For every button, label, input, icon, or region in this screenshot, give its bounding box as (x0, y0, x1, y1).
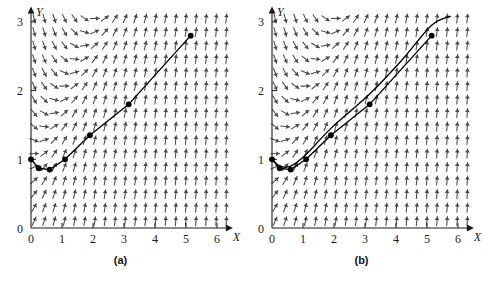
field-arrow-icon (364, 109, 369, 118)
field-arrow-icon (93, 109, 98, 118)
field-arrow-icon (103, 68, 107, 76)
field-arrow-icon (273, 217, 277, 225)
field-arrow-icon (435, 176, 440, 185)
field-arrow-icon (113, 176, 118, 185)
field-arrow-icon (291, 110, 300, 115)
field-arrow-icon (204, 28, 209, 37)
x-tick-label-a-1: 1 (59, 232, 65, 246)
field-arrow-icon (313, 109, 318, 117)
field-arrow-icon (42, 177, 47, 185)
field-arrow-icon (83, 163, 88, 172)
field-arrow-icon (404, 122, 409, 131)
field-arrow-icon (41, 151, 48, 156)
field-arrow-icon (42, 217, 47, 226)
field-arrow-icon (173, 82, 178, 91)
x-tick-label-b-5: 5 (424, 232, 430, 246)
field-arrow-icon (184, 68, 189, 77)
curves-b (269, 16, 450, 172)
x-tick-label-a-6: 6 (214, 232, 220, 246)
field-arrow-icon (82, 82, 87, 89)
field-arrow-icon (384, 203, 389, 212)
field-arrow-icon (344, 136, 349, 145)
field-arrow-icon (273, 55, 278, 64)
field-arrow-icon (71, 43, 79, 48)
field-arrow-icon (311, 57, 320, 62)
field-arrow-icon (123, 122, 128, 131)
field-arrow-icon (194, 136, 199, 145)
field-arrow-icon (163, 217, 168, 226)
field-arrow-icon (465, 163, 470, 172)
field-arrow-icon (334, 203, 339, 212)
field-arrow-icon (303, 217, 308, 226)
field-arrow-icon (224, 109, 229, 118)
field-arrow-icon (445, 95, 450, 104)
field-arrow-icon (384, 122, 389, 131)
field-arrow-icon (354, 203, 359, 212)
field-arrow-icon (103, 217, 108, 226)
field-arrow-icon (312, 43, 320, 48)
field-arrow-icon (435, 68, 440, 77)
field-arrow-icon (374, 68, 379, 77)
field-arrow-icon (292, 83, 299, 88)
field-arrow-icon (194, 55, 199, 64)
field-arrow-icon (364, 55, 369, 64)
field-arrow-icon (184, 28, 189, 37)
field-arrow-icon (293, 190, 298, 198)
field-arrow-icon (404, 68, 409, 77)
field-arrow-icon (51, 83, 58, 88)
field-arrow-icon (143, 14, 148, 23)
field-arrow-icon (273, 96, 278, 104)
field-arrow-icon (163, 82, 168, 91)
field-arrow-icon (133, 68, 138, 77)
field-arrow-icon (184, 190, 189, 199)
y-axis-arrow-icon (269, 7, 276, 14)
field-arrow-icon (112, 15, 117, 22)
field-arrow-icon (224, 176, 229, 185)
x-tick-label-b-1: 1 (300, 232, 306, 246)
field-arrow-icon (272, 191, 277, 198)
field-arrow-icon (394, 203, 399, 212)
field-arrow-icon (214, 109, 219, 118)
field-arrow-icon (283, 14, 288, 23)
curves-a (28, 33, 193, 173)
field-arrow-icon (332, 43, 339, 49)
field-arrow-icon (224, 136, 229, 145)
field-arrow-icon (374, 136, 379, 145)
field-arrow-icon (143, 28, 148, 37)
field-arrow-icon (455, 176, 460, 185)
field-arrow-icon (42, 14, 47, 23)
field-arrow-icon (224, 14, 229, 23)
field-arrow-icon (61, 56, 68, 62)
curve-data-point (303, 156, 309, 162)
field-arrow-icon (163, 109, 168, 118)
field-arrow-icon (133, 82, 138, 91)
y-axis-label: Y (277, 5, 285, 19)
field-arrow-icon (153, 136, 158, 145)
field-arrow-icon (394, 95, 399, 104)
field-arrow-icon (465, 95, 470, 104)
field-arrow-icon (123, 109, 128, 118)
field-arrow-icon (324, 149, 329, 158)
field-arrow-icon (184, 95, 189, 104)
field-arrow-icon (445, 28, 450, 37)
field-arrow-icon (384, 95, 389, 104)
field-arrow-icon (455, 190, 460, 199)
field-arrow-icon (384, 176, 389, 185)
field-arrow-icon (174, 55, 179, 64)
curve-data-point (47, 167, 53, 173)
field-arrow-icon (435, 190, 440, 199)
field-arrow-icon (343, 29, 349, 36)
x-tick-label-a-3: 3 (121, 232, 127, 246)
field-arrow-icon (404, 109, 409, 118)
field-arrow-icon (73, 176, 78, 185)
field-arrow-icon (364, 163, 369, 172)
field-arrow-icon (174, 41, 179, 50)
field-arrow-icon (455, 122, 460, 131)
field-arrow-icon (204, 217, 209, 226)
field-arrow-icon (40, 124, 49, 129)
field-arrow-icon (455, 217, 460, 226)
direction-field-b (271, 14, 470, 226)
field-arrow-icon (313, 203, 318, 212)
field-arrow-icon (465, 176, 470, 185)
panel-a-plot: 01234560123XY (0, 0, 241, 282)
